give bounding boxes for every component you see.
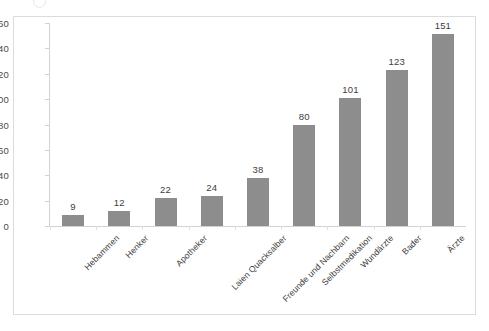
plot-area: 160140120100806040200 912222438801011231… <box>14 17 475 314</box>
y-axis-tick-label: 100 <box>0 94 9 105</box>
bar-value-label: 151 <box>435 20 451 31</box>
bar-value-label: 24 <box>206 182 217 193</box>
bar-series: 91222243880101123151 <box>50 23 466 226</box>
y-axis-tick-label: 160 <box>0 18 9 29</box>
x-axis-category-label: Ärzte <box>445 233 467 255</box>
bar-group[interactable]: 80 <box>281 23 327 226</box>
bar[interactable] <box>247 178 269 226</box>
bar-value-label: 123 <box>388 56 404 67</box>
bar-value-label: 22 <box>160 184 171 195</box>
bar-value-label: 80 <box>299 111 310 122</box>
bar-group[interactable]: 101 <box>327 23 373 226</box>
bar-group[interactable]: 22 <box>142 23 188 226</box>
top-edge-artifact <box>33 0 46 8</box>
bar-value-label: 101 <box>342 84 358 95</box>
bar[interactable] <box>155 198 177 226</box>
y-axis-tick-label: 60 <box>0 144 9 155</box>
x-axis-label-slot: Henker <box>96 230 142 314</box>
y-axis-tick-mark <box>45 175 49 176</box>
y-axis-tick-label: 80 <box>0 119 9 130</box>
x-axis-label-slot: Selbstmedikation <box>281 230 327 314</box>
bar-group[interactable]: 151 <box>420 23 466 226</box>
bar[interactable] <box>62 215 84 226</box>
bar[interactable] <box>339 98 361 226</box>
bar-group[interactable]: 12 <box>96 23 142 226</box>
x-axis-category-labels: HebammenHenkerApothekerLaien Quacksalber… <box>50 230 466 314</box>
bar[interactable] <box>201 196 223 226</box>
bar-group[interactable]: 24 <box>189 23 235 226</box>
bar[interactable] <box>293 125 315 227</box>
bar-value-label: 9 <box>70 201 75 212</box>
chart-frame: 160140120100806040200 912222438801011231… <box>13 16 476 315</box>
y-axis-tick-mark <box>45 74 49 75</box>
bar[interactable] <box>386 70 408 226</box>
bar[interactable] <box>432 34 454 226</box>
x-axis-label-slot: Wundärzte <box>327 230 373 314</box>
y-axis-tick-mark <box>45 99 49 100</box>
y-axis-tick-mark <box>45 23 49 24</box>
y-axis-tick-label: 40 <box>0 170 9 181</box>
bar-group[interactable]: 123 <box>374 23 420 226</box>
x-axis-label-slot: Ärzte <box>420 230 466 314</box>
bar-value-label: 12 <box>114 197 125 208</box>
y-axis-tick-mark <box>45 201 49 202</box>
x-axis-baseline <box>49 226 466 227</box>
x-axis-label-slot: Hebammen <box>50 230 96 314</box>
bar[interactable] <box>108 211 130 226</box>
bar-group[interactable]: 38 <box>235 23 281 226</box>
x-axis-label-slot: Bader <box>374 230 420 314</box>
bar-group[interactable]: 9 <box>50 23 96 226</box>
bar-value-label: 38 <box>253 164 264 175</box>
x-axis-label-slot: Apotheker <box>142 230 188 314</box>
y-axis-tick-label: 120 <box>0 68 9 79</box>
y-axis-tick-label: 140 <box>0 43 9 54</box>
y-axis-tick-label: 0 <box>4 221 9 232</box>
y-axis-tick-mark <box>45 150 49 151</box>
y-axis-tick-mark <box>45 48 49 49</box>
y-axis-tick-mark <box>45 125 49 126</box>
x-axis-label-slot: Laien Quacksalber <box>189 230 235 314</box>
x-axis-label-slot: Freunde und Nachbarn <box>235 230 281 314</box>
y-axis-tick-mark <box>45 226 49 227</box>
y-axis-tick-label: 20 <box>0 195 9 206</box>
